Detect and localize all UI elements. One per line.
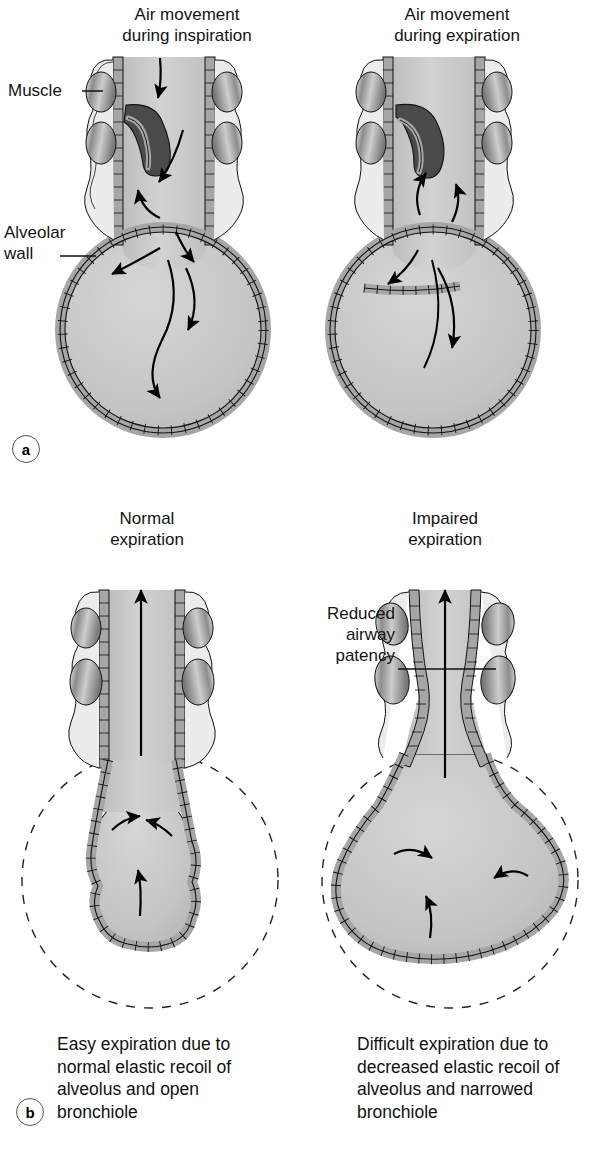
panel-a-right-title: Air movement during expiration	[332, 4, 582, 46]
panel-marker-b: b	[16, 1098, 44, 1126]
panel-b-left-illustration	[22, 590, 278, 1008]
caption-b-right: Difficult expiration due to decreased el…	[357, 1033, 612, 1123]
caption-b-left: Easy expiration due to normal elastic re…	[57, 1033, 297, 1123]
diagram-canvas	[0, 0, 615, 1150]
muscle-bundles-a-left	[85, 60, 116, 240]
panel-b-left-title: Normal expiration	[67, 508, 227, 550]
panel-b-right-title: Impaired expiration	[365, 508, 525, 550]
label-reduced-airway-patency: Reduced airway patency	[300, 603, 395, 666]
respiratory-airflow-figure: Air movement during inspiration Muscle A…	[0, 0, 615, 1150]
panel-a-left-illustration	[60, 57, 266, 433]
muscle-bundles-a-left-right	[212, 60, 243, 240]
panel-marker-a: a	[12, 435, 40, 463]
detached-wall-fragment-a-right	[364, 286, 460, 291]
panel-a-right-illustration	[330, 57, 536, 433]
